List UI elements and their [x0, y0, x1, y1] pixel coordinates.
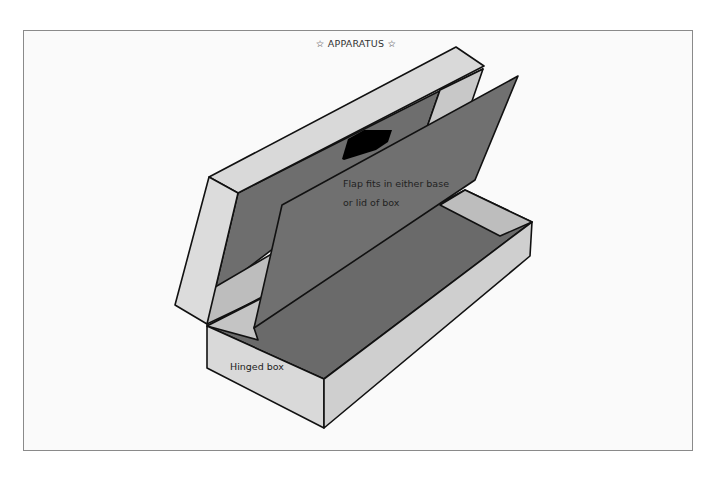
hinged-box-diagram	[0, 0, 712, 479]
box-label: Hinged box	[230, 361, 284, 372]
flap-label-line1: Flap fits in either base	[343, 178, 449, 189]
flap-label-line2: or lid of box	[343, 197, 399, 208]
